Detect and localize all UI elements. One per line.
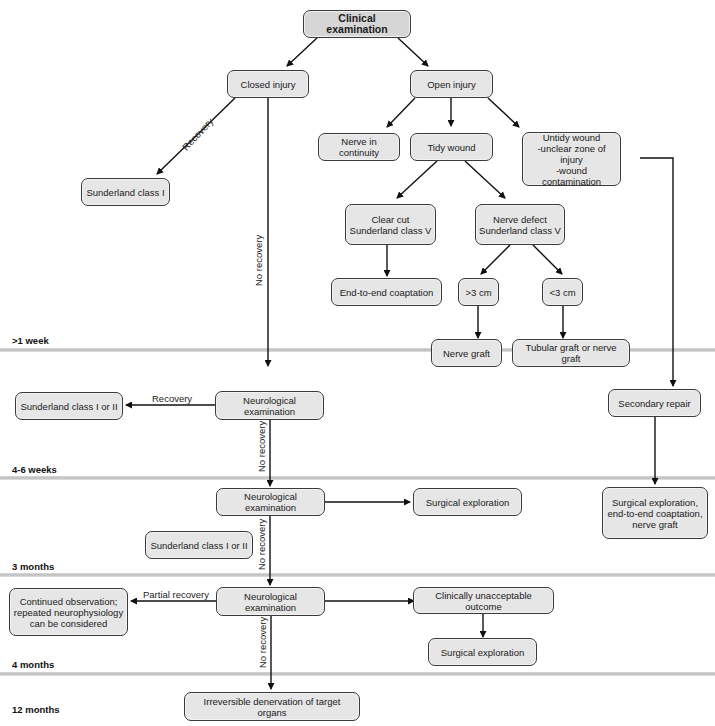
node-secondary-repair: Secondary repair: [608, 389, 701, 417]
edge-label-recovery: Recovery: [152, 393, 192, 404]
node-untidy-wound: Untidy wound -unclear zone of injury -wo…: [522, 132, 621, 186]
node-nerve-in-continuity: Nerve in continuity: [318, 133, 400, 161]
node-clinically-unacceptable-outcome: Clinically unacceptable outcome: [413, 587, 554, 614]
node-neurological-examination: Neurological examination: [216, 587, 325, 616]
edge-label-no-recovery: No recovery: [257, 617, 268, 668]
node-sunderland-class-i-or-ii: Sunderland class I or II: [15, 392, 123, 420]
node-less-than-3cm: <3 cm: [542, 278, 583, 306]
node-continued-observation: Continued observation; repeated neurophy…: [9, 588, 128, 636]
node-surgical-exploration: Surgical exploration: [413, 488, 522, 516]
node-surgical-exploration: Surgical exploration: [428, 638, 537, 666]
node-surgical-exploration-coaptation-graft: Surgical exploration, end-to-end coaptat…: [602, 487, 708, 539]
node-greater-than-3cm: >3 cm: [458, 278, 499, 306]
node-sunderland-class-i: Sunderland class I: [81, 178, 170, 206]
node-neurological-examination: Neurological examination: [215, 391, 324, 420]
node-irreversible-denervation: Irreversible denervation of target organ…: [184, 692, 360, 721]
node-sunderland-class-i-or-ii: Sunderland class I or II: [145, 531, 253, 559]
edge-label-no-recovery: No recovery: [253, 235, 264, 286]
node-nerve-defect: Nerve defect Sunderland class V: [475, 204, 565, 245]
node-nerve-graft: Nerve graft: [431, 339, 502, 367]
node-open-injury: Open injury: [410, 70, 493, 98]
node-closed-injury: Closed injury: [227, 70, 309, 98]
edge-label-partial-recovery: Partial recovery: [143, 589, 209, 600]
node-tubular-graft: Tubular graft or nerve graft: [512, 339, 630, 367]
node-clinical-examination: Clinical examination: [303, 10, 411, 38]
node-neurological-examination: Neurological examination: [216, 488, 325, 516]
edge-label-no-recovery: No recovery: [256, 421, 267, 472]
node-end-to-end-coaptation: End-to-end coaptation: [331, 278, 442, 306]
node-tidy-wound: Tidy wound: [410, 133, 493, 161]
edge-label-no-recovery: No recovery: [256, 519, 267, 570]
node-clear-cut: Clear cut Sunderland class V: [345, 204, 436, 245]
